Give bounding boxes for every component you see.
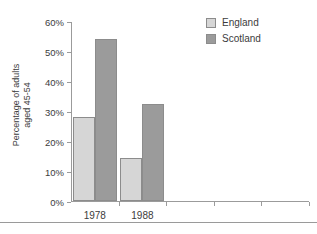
x-axis-tick-mark [309, 202, 310, 206]
y-axis-tick: 40% [71, 82, 72, 83]
y-axis-tick-label: 50% [45, 47, 64, 58]
y-axis-tick-mark [67, 22, 71, 23]
y-axis-title: Percentage of adults aged 45-54 [8, 40, 36, 170]
x-axis-tick-label: 1978 [84, 210, 106, 221]
legend-item-scotland: Scotland [206, 32, 261, 45]
y-axis-tick-label: 60% [45, 17, 64, 28]
legend-swatch-icon [206, 18, 216, 28]
legend-item-england: England [206, 16, 261, 29]
y-axis-tick-mark [67, 52, 71, 53]
y-axis-tick: 30% [71, 112, 72, 113]
y-axis-tick-label: 40% [45, 77, 64, 88]
x-axis-tick-label: 1988 [131, 210, 153, 221]
y-axis-tick: 50% [71, 52, 72, 53]
y-axis-tick-label: 20% [45, 137, 64, 148]
y-axis-tick-label: 30% [45, 107, 64, 118]
y-axis-tick: 0% [71, 202, 72, 203]
x-axis-tick-mark [119, 202, 120, 206]
y-axis-tick-mark [67, 172, 71, 173]
x-axis-line [71, 201, 309, 202]
y-axis-tick-label: 10% [45, 167, 64, 178]
bar-chart-figure: Percentage of adults aged 45-54 0%10%20%… [0, 0, 317, 234]
y-axis-tick: 60% [71, 22, 72, 23]
chart-legend: EnglandScotland [206, 16, 261, 48]
bar-scotland-1988 [142, 104, 164, 202]
y-axis-tick-mark [67, 142, 71, 143]
legend-label: England [222, 17, 259, 28]
legend-swatch-icon [206, 34, 216, 44]
bar-scotland-1978 [95, 39, 117, 201]
bar-england-1978 [73, 117, 95, 201]
x-axis-tick-mark [214, 202, 215, 206]
y-axis-title-line2: aged 45-54 [22, 64, 33, 147]
y-axis-tick-mark [67, 202, 71, 203]
legend-label: Scotland [222, 33, 261, 44]
y-axis-tick-label: 0% [50, 197, 64, 208]
y-axis-title-line1: Percentage of adults [11, 64, 21, 147]
x-axis-tick-mark [166, 202, 167, 206]
plot-area: 0%10%20%30%40%50%60% 19781988 [71, 22, 309, 202]
y-axis-tick-mark [67, 112, 71, 113]
bottom-divider [0, 222, 317, 223]
y-axis-tick-mark [67, 82, 71, 83]
x-axis-tick-mark [261, 202, 262, 206]
bar-england-1988 [120, 158, 142, 202]
